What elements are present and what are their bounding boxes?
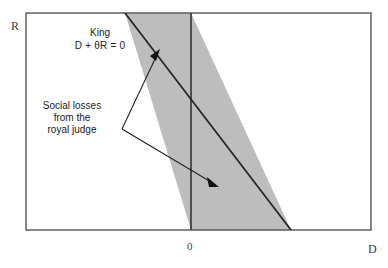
king-annotation: King D + θR = 0 (63, 27, 137, 52)
king-annotation-label: King (90, 27, 110, 38)
king-annotation-equation: D + θR = 0 (63, 40, 137, 52)
social-losses-line-2: from the (31, 112, 113, 124)
x-axis-label: D (368, 243, 377, 255)
economics-figure: R D 0 King D + θR = 0 Social losses from… (0, 0, 388, 268)
origin-tick-label: 0 (187, 241, 193, 252)
social-losses-annotation: Social losses from the royal judge (31, 100, 113, 135)
social-losses-line-3: royal judge (31, 124, 113, 136)
social-losses-line-1: Social losses (31, 100, 113, 112)
y-axis-label: R (11, 20, 19, 32)
